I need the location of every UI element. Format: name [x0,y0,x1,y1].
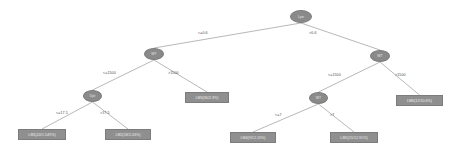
tree-leaf-l4[interactable]: LM4(9/12.15%) [230,132,276,143]
tree-leaf-label: LM3(36/2.3%) [195,96,218,100]
tree-leaf-l1[interactable]: LM1(20/1.549%) [18,129,66,140]
tree-leaf-l3[interactable]: LM3(36/2.3%) [185,92,229,103]
tree-edge [380,62,420,95]
tree-edge-label: >1500 [395,73,406,77]
tree-edge [93,60,155,90]
tree-edge [253,104,319,132]
tree-node-n2[interactable]: WT [370,50,390,62]
tree-node-n3[interactable]: Dpt [83,90,102,102]
tree-node-label: Lpe [298,15,304,19]
decision-tree-diagram: LpeWTWTDptWTLM1(20/1.549%)LM2(18/2.03%)L… [0,0,471,156]
tree-node-n4[interactable]: WT [309,92,328,104]
tree-node-label: Dpt [90,94,96,98]
tree-edge [319,104,355,132]
tree-edge [154,23,301,48]
tree-edge [93,102,129,129]
tree-edge-label: >0.6 [309,31,317,35]
tree-leaf-label: LM2(18/2.03%) [115,133,140,137]
tree-edge [319,62,381,92]
tree-node-n0[interactable]: Lpe [290,10,312,23]
tree-node-label: WT [151,52,156,56]
tree-node-label: WT [377,54,382,58]
tree-edge-label: <=7 [275,113,282,117]
tree-edge [42,102,93,129]
tree-leaf-label: LM5(15/12.91%) [340,136,367,140]
tree-node-label: WT [316,96,321,100]
tree-edge [154,60,207,92]
tree-leaf-l2[interactable]: LM2(18/2.03%) [105,129,151,140]
tree-edge-label: <=0.6 [198,31,208,35]
tree-edge-label: <=17.5 [56,111,68,115]
tree-edge-label: >17.5 [100,111,110,115]
tree-leaf-l5[interactable]: LM5(15/12.91%) [330,132,378,143]
tree-leaf-label: LM6(12/10.6%) [407,99,432,103]
tree-edge-label: <=1500 [328,73,341,77]
tree-node-n1[interactable]: WT [144,48,164,60]
tree-edge-label: >7 [330,113,334,117]
tree-leaf-label: LM1(20/1.549%) [28,133,55,137]
tree-edge-label: <=1500 [103,71,116,75]
tree-edge-label: >1500 [168,71,179,75]
tree-leaf-label: LM4(9/12.15%) [240,136,265,140]
tree-leaf-l6[interactable]: LM6(12/10.6%) [396,95,443,106]
tree-edge [301,23,380,50]
